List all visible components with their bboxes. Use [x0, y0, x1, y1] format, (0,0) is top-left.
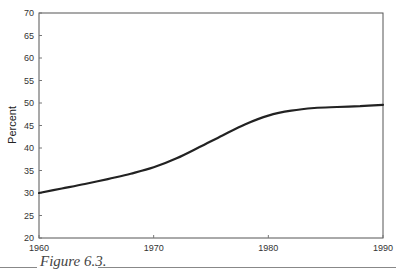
y-tick-label: 35: [24, 166, 34, 176]
y-axis-title: Percent: [6, 106, 18, 144]
x-tick-label: 1990: [373, 243, 393, 253]
y-tick-label: 25: [24, 211, 34, 221]
y-tick-label: 60: [24, 53, 34, 63]
y-tick-label: 20: [24, 233, 34, 243]
x-tick-label: 1960: [29, 243, 49, 253]
x-tick-label: 1980: [258, 243, 278, 253]
y-tick-label: 55: [24, 76, 34, 86]
figure-caption: Figure 6.3.: [40, 253, 107, 269]
y-tick-label: 50: [24, 98, 34, 108]
caption-rule-left: [0, 267, 37, 268]
x-tick-label: 1970: [144, 243, 164, 253]
line-chart: 2025303540455055606570 1960197019801990 …: [0, 0, 396, 272]
plot-frame: [39, 13, 383, 238]
y-tick-label: 45: [24, 121, 34, 131]
y-tick-label: 65: [24, 31, 34, 41]
y-tick-label: 30: [24, 188, 34, 198]
y-tick-label: 70: [24, 8, 34, 18]
data-line: [39, 105, 383, 193]
y-tick-label: 40: [24, 143, 34, 153]
caption-rule-right: [98, 267, 396, 268]
